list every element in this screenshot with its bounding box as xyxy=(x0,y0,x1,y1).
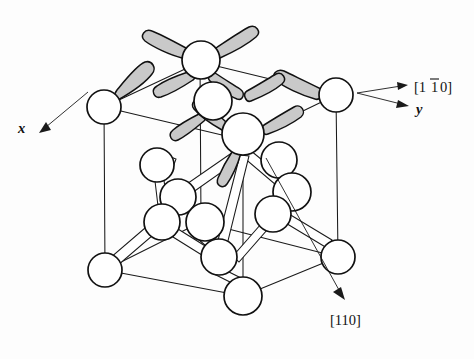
atom-corner-bottom-back-left xyxy=(88,253,122,287)
label-direction-1bar10-barred: 1 xyxy=(431,79,438,95)
label-direction-1bar10-post: 0] xyxy=(440,79,452,95)
atom-corner-top-back-right xyxy=(319,78,353,112)
label-direction-110: [110] xyxy=(330,312,361,328)
atom-inner-center-low xyxy=(201,239,237,275)
atom-top-face-mid xyxy=(194,82,232,120)
lobe-icon xyxy=(143,30,189,58)
label-axis-x: x xyxy=(17,120,25,136)
atom-top-face-back xyxy=(182,41,220,79)
arrow-1bar10-head xyxy=(397,82,408,90)
atom-corner-bottom-front xyxy=(224,277,262,315)
atom-inner-center xyxy=(186,203,224,241)
arrow-y-line xyxy=(357,93,401,104)
atom-corner-top-back-left xyxy=(87,90,121,124)
lobe-icon xyxy=(114,62,154,101)
atom-inner-left-upper xyxy=(140,148,174,182)
lobe-icon xyxy=(262,106,304,134)
atom-top-face-front xyxy=(222,113,264,155)
crystal-structure-figure: [1 1 0] y x [110] xyxy=(0,0,474,359)
atom-inner-left-lower xyxy=(144,204,180,240)
arrow-x-line xyxy=(46,92,88,127)
arrow-x-head xyxy=(39,122,51,133)
label-axis-y: y xyxy=(414,101,423,117)
crystal-lattice-svg: [1 1 0] y x [110] xyxy=(0,0,474,359)
atom-corner-bottom-back-right xyxy=(321,240,355,274)
atom-inner-right-low xyxy=(255,196,291,232)
arrow-1bar10-line xyxy=(357,86,401,93)
arrow-y-head xyxy=(396,100,409,108)
label-direction-1bar10-pre: [1 xyxy=(414,79,426,95)
lobe-icon xyxy=(214,26,259,58)
arrow-110-head xyxy=(333,287,345,300)
